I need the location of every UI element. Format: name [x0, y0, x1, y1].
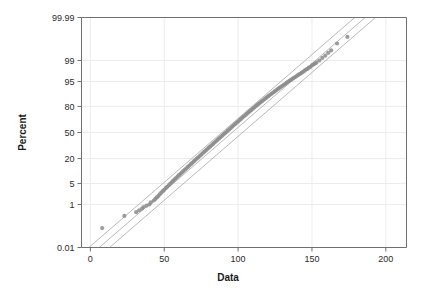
probability-plot: 0501001502000.0115205080959999.99 Percen… — [0, 0, 426, 294]
y-tick-label: 0.01 — [57, 243, 75, 253]
y-axis-title: Percent — [17, 113, 28, 150]
data-point — [122, 214, 126, 218]
x-tick-label: 150 — [304, 254, 319, 264]
x-tick-label: 200 — [378, 254, 393, 264]
y-tick-label: 20 — [64, 154, 74, 164]
x-axis-title: Data — [217, 272, 239, 283]
plot-canvas: 0501001502000.0115205080959999.99 Percen… — [0, 0, 426, 294]
y-tick-label: 95 — [64, 77, 74, 87]
y-tick-label: 99 — [64, 56, 74, 66]
y-tick-label: 1 — [69, 200, 74, 210]
data-point — [335, 41, 339, 45]
y-tick-label: 80 — [64, 102, 74, 112]
data-point — [329, 48, 333, 52]
y-tick-label: 50 — [64, 128, 74, 138]
y-tick-label: 5 — [69, 179, 74, 189]
y-tick-label: 99.99 — [52, 13, 75, 23]
data-point — [345, 35, 349, 39]
data-point — [100, 226, 104, 230]
x-tick-label: 50 — [159, 254, 169, 264]
x-tick-label: 100 — [231, 254, 246, 264]
x-tick-label: 0 — [88, 254, 93, 264]
